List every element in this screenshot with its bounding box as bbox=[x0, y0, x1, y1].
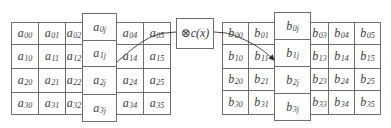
cell-var: a bbox=[18, 96, 24, 111]
cell-a35: a35 bbox=[143, 92, 171, 115]
cell-b23: b23 bbox=[310, 68, 329, 91]
cell-index: 23 bbox=[319, 77, 327, 86]
cell-a11: a11 bbox=[38, 44, 66, 69]
cell-index: 25 bbox=[367, 77, 375, 86]
cell-a10: a10 bbox=[11, 44, 39, 69]
cell-b35: b35 bbox=[354, 90, 381, 115]
cell-a31: a31 bbox=[38, 92, 66, 115]
cell-index: 3j bbox=[100, 106, 106, 115]
cell-a14: a14 bbox=[116, 44, 144, 69]
cell-var: a bbox=[123, 26, 129, 41]
cell-var: a bbox=[45, 96, 51, 111]
cell-b31: b31 bbox=[248, 90, 275, 115]
cell-a04: a04 bbox=[116, 22, 144, 45]
cell-index: 13 bbox=[319, 54, 327, 63]
cell-var: a bbox=[67, 73, 73, 88]
cell-b25: b25 bbox=[354, 68, 381, 91]
cell-var: a bbox=[45, 49, 51, 64]
cell-b01: b01 bbox=[248, 22, 275, 45]
cell-index: 05 bbox=[156, 31, 164, 40]
cell-a22: a22 bbox=[65, 68, 83, 93]
cell-index: 04 bbox=[341, 31, 349, 40]
cell-index: 25 bbox=[156, 78, 164, 87]
cell-b11: b11 bbox=[248, 44, 275, 69]
cell-a24: a24 bbox=[116, 68, 144, 93]
cell-index: 31 bbox=[51, 101, 59, 110]
cell-index: 1j bbox=[100, 51, 106, 60]
cell-var: b bbox=[254, 72, 260, 87]
cell-a20: a20 bbox=[11, 68, 39, 93]
cell-index: 10 bbox=[235, 54, 243, 63]
cell-index: 11 bbox=[261, 54, 268, 63]
cell-var: b bbox=[286, 19, 292, 34]
cell-var: b bbox=[360, 95, 366, 110]
cell-index: 00 bbox=[24, 31, 32, 40]
cell-index: 1j bbox=[293, 51, 299, 60]
cell-index: 3j bbox=[293, 105, 299, 114]
cell-var: a bbox=[150, 49, 156, 64]
cell-index: 15 bbox=[156, 54, 164, 63]
cell-b30: b30 bbox=[222, 90, 249, 115]
cell-a32: a32 bbox=[65, 92, 83, 115]
cell-index: 0j bbox=[293, 24, 299, 33]
cell-index: 14 bbox=[341, 54, 349, 63]
cell-var: b bbox=[334, 26, 340, 41]
cell-var: a bbox=[150, 96, 156, 111]
cell-a0j: a0j bbox=[82, 13, 117, 41]
cell-b04: b04 bbox=[328, 22, 355, 45]
cell-var: b bbox=[228, 95, 234, 110]
cell-b2j: b2j bbox=[274, 66, 311, 94]
cell-a12: a12 bbox=[65, 44, 83, 69]
cell-var: a bbox=[93, 73, 99, 88]
cell-index: 01 bbox=[51, 31, 59, 40]
cell-var: a bbox=[93, 101, 99, 116]
cell-var: b bbox=[286, 73, 292, 88]
cell-index: 32 bbox=[73, 101, 81, 110]
cell-index: 24 bbox=[341, 77, 349, 86]
cell-index: 2j bbox=[293, 78, 299, 87]
cell-index: 20 bbox=[24, 78, 32, 87]
cell-var: b bbox=[254, 26, 260, 41]
cell-b1j: b1j bbox=[274, 39, 311, 67]
cell-index: 05 bbox=[367, 31, 375, 40]
cell-var: a bbox=[18, 26, 24, 41]
cell-var: b bbox=[312, 95, 318, 110]
cell-var: b bbox=[312, 72, 318, 87]
cell-b34: b34 bbox=[328, 90, 355, 115]
cell-var: b bbox=[228, 72, 234, 87]
cell-b15: b15 bbox=[354, 44, 381, 69]
cell-var: a bbox=[150, 73, 156, 88]
cell-var: b bbox=[228, 26, 234, 41]
cell-index: 12 bbox=[73, 54, 81, 63]
cell-b03: b03 bbox=[310, 22, 329, 45]
cell-var: b bbox=[360, 49, 366, 64]
cell-a21: a21 bbox=[38, 68, 66, 93]
cell-var: a bbox=[123, 49, 129, 64]
cell-a02: a02 bbox=[65, 22, 83, 45]
cell-var: b bbox=[312, 26, 318, 41]
cell-var: b bbox=[228, 49, 234, 64]
cell-index: 15 bbox=[367, 54, 375, 63]
cell-index: 22 bbox=[73, 78, 81, 87]
cell-b33: b33 bbox=[310, 90, 329, 115]
cell-b20: b20 bbox=[222, 68, 249, 91]
cell-a15: a15 bbox=[143, 44, 171, 69]
cell-var: b bbox=[360, 72, 366, 87]
cell-var: a bbox=[18, 49, 24, 64]
cell-index: 33 bbox=[319, 100, 327, 109]
cell-index: 21 bbox=[261, 77, 269, 86]
cell-a00: a00 bbox=[11, 22, 39, 45]
cell-index: 2j bbox=[100, 78, 106, 87]
cell-b3j: b3j bbox=[274, 93, 311, 121]
cell-index: 02 bbox=[73, 31, 81, 40]
cell-var: a bbox=[123, 96, 129, 111]
cell-index: 30 bbox=[24, 101, 32, 110]
cell-a30: a30 bbox=[11, 92, 39, 115]
cell-b24: b24 bbox=[328, 68, 355, 91]
cell-var: a bbox=[67, 49, 73, 64]
cell-index: 11 bbox=[52, 54, 59, 63]
cell-index: 30 bbox=[235, 100, 243, 109]
cell-var: a bbox=[67, 26, 73, 41]
cell-var: b bbox=[334, 95, 340, 110]
cell-b0j: b0j bbox=[274, 12, 311, 40]
